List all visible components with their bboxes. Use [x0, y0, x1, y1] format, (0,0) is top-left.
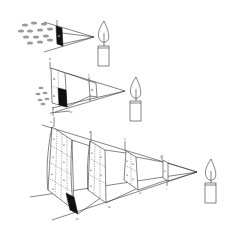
area-label: A — [132, 178, 134, 181]
area-face-distance-3 — [88, 141, 106, 203]
inverse-square-diagram: A 2 A 1 A — [0, 0, 232, 235]
area-label: A — [52, 188, 54, 191]
candle-icon — [205, 159, 216, 203]
area-label: A — [63, 144, 65, 147]
area-label: A — [132, 163, 134, 166]
tick-label: r — [166, 188, 168, 191]
moth-cluster-icon — [18, 22, 53, 45]
panel-1: A — [18, 20, 109, 66]
area-label: A — [53, 138, 55, 141]
area-label: A — [63, 179, 65, 182]
area-label: A — [90, 169, 92, 172]
area-label: A — [63, 161, 65, 164]
distance-label-2: 2 — [49, 57, 51, 61]
candle-icon — [130, 77, 141, 121]
panel-2: 2 A 1 A A 2r — [36, 57, 142, 121]
area-label: A — [126, 174, 128, 177]
tick-label: 2r — [139, 192, 143, 195]
distance-label-1: 1 — [88, 74, 90, 77]
distance-label-4: 4 — [50, 121, 52, 124]
tick-label: 4r — [76, 218, 80, 221]
tick-label: 2r — [70, 111, 74, 114]
area-label: A — [126, 160, 128, 163]
area-label: A — [100, 156, 102, 159]
moth-cluster-icon — [36, 87, 50, 106]
area-label: A — [51, 173, 53, 176]
candle-icon — [98, 21, 109, 66]
distance-label-2: 2 — [124, 138, 126, 141]
tick-label: 3r — [108, 206, 112, 209]
area-label: A — [90, 185, 92, 188]
area-A-square-shaded — [58, 88, 67, 107]
area-label: A — [91, 152, 93, 155]
area-label: A — [100, 174, 102, 177]
panel-3: 4 3 2 1 A A A A A A A 4r — [30, 117, 216, 221]
area-label: A — [52, 156, 54, 159]
area-label: A — [164, 170, 166, 173]
